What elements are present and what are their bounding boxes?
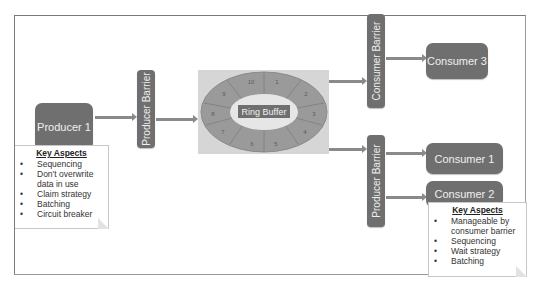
consumer-barrier-label: Consumer Barrier xyxy=(371,22,382,101)
consumer-note-item: Manageable by consumer barrier xyxy=(451,216,526,236)
consumer-1-box: Consumer 1 xyxy=(426,143,503,174)
arrow-ring-to-producer-barrier-right xyxy=(329,148,363,151)
producer-1-box: Producer 1 xyxy=(35,103,93,150)
arrow-ring-to-consumer-barrier xyxy=(329,80,363,83)
producer-notes-title: Key Aspects xyxy=(15,148,108,158)
consumer-3-box: Consumer 3 xyxy=(426,43,488,79)
arrow-to-consumer-2 xyxy=(386,196,423,199)
producer-barrier-right: Producer Barrier xyxy=(367,135,385,227)
ring-buffer: 10 1 2 3 4 5 6 7 8 9 Ring Buffer xyxy=(198,70,329,154)
producer-note-item: Sequencing xyxy=(37,159,108,169)
producer-key-aspects-note: Key Aspects Sequencing Don't overwrite d… xyxy=(15,145,109,229)
consumer-note-item: Wait strategy xyxy=(451,246,526,256)
consumer-key-aspects-note: Key Aspects Manageable by consumer barri… xyxy=(428,202,527,277)
consumer-1-label: Consumer 1 xyxy=(435,153,495,165)
producer-note-item: Batching xyxy=(37,199,108,209)
page-fold-icon xyxy=(98,218,109,229)
producer-1-label: Producer 1 xyxy=(37,121,91,133)
arrow-to-consumer-3 xyxy=(386,57,423,60)
consumer-note-item: Batching xyxy=(451,256,526,266)
consumer-2-label: Consumer 2 xyxy=(435,188,495,200)
consumer-barrier: Consumer Barrier xyxy=(367,14,385,108)
svg-text:10: 10 xyxy=(248,79,255,85)
consumer-3-label: Consumer 3 xyxy=(427,55,487,67)
producer-barrier-left: Producer Barrier xyxy=(137,70,155,148)
producer-note-item: Don't overwrite data in use xyxy=(37,169,108,189)
page-fold-icon xyxy=(516,266,527,277)
consumer-notes-list: Manageable by consumer barrier Sequencin… xyxy=(429,216,526,266)
consumer-notes-title: Key Aspects xyxy=(429,205,526,215)
ring-buffer-label: Ring Buffer xyxy=(238,105,290,118)
arrow-barrier-to-ring xyxy=(156,118,194,121)
producer-barrier-left-label: Producer Barrier xyxy=(141,72,152,145)
arrow-to-consumer-1 xyxy=(386,152,423,155)
consumer-note-item: Sequencing xyxy=(451,236,526,246)
arrow-producer-to-barrier xyxy=(95,116,133,119)
producer-barrier-right-label: Producer Barrier xyxy=(371,144,382,217)
producer-notes-list: Sequencing Don't overwrite data in use C… xyxy=(15,159,108,219)
producer-note-item: Claim strategy xyxy=(37,189,108,199)
